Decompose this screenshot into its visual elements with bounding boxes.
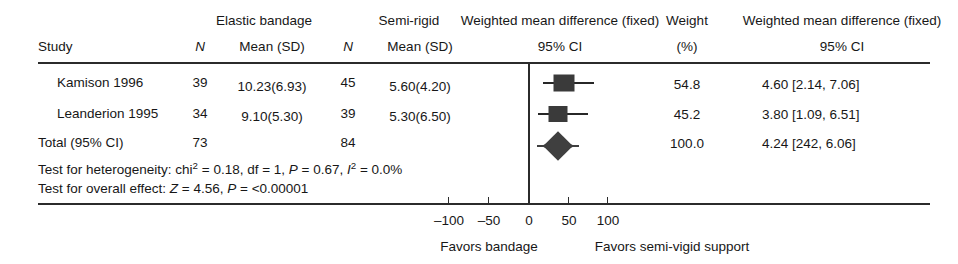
- table-row-weight: 45.2: [674, 108, 700, 122]
- overall-mid: = 4.56,: [178, 181, 227, 196]
- header-group2-title: Semi-rigid: [379, 14, 440, 28]
- heterogeneity-test: Test for heterogeneity: chi2 = 0.18, df …: [38, 163, 402, 177]
- header-forest-title: Weighted mean difference (fixed): [461, 14, 659, 28]
- table-row-n2: 39: [340, 107, 355, 121]
- p-symbol: P: [227, 181, 236, 196]
- table-row-effect: 4.60 [2.14, 7.06]: [762, 78, 860, 92]
- header-mean-sd-group1: Mean (SD): [239, 40, 304, 54]
- z-symbol: Z: [170, 181, 178, 196]
- total-row-n2: 84: [340, 136, 355, 150]
- total-row-n1: 73: [192, 136, 207, 150]
- axis-tick: [488, 197, 489, 203]
- footer-rule: [38, 203, 930, 205]
- header-weight-title: Weight: [666, 14, 708, 28]
- table-row-n1: 34: [192, 107, 207, 121]
- total-row-weight: 100.0: [670, 137, 704, 151]
- axis-tick-label: 0: [525, 214, 533, 228]
- table-row-mean-sd1: 10.23(6.93): [237, 80, 306, 94]
- table-row-mean-sd2: 5.30(6.50): [389, 110, 451, 124]
- table-row-study: Kamison 1996: [57, 76, 143, 90]
- forest-plot-figure: Elastic bandage Semi-rigid Weighted mean…: [0, 0, 958, 264]
- header-effect-title: Weighted mean difference (fixed): [743, 14, 941, 28]
- heterogeneity-prefix: Test for heterogeneity: chi: [38, 162, 193, 177]
- overall-tail: = <0.00001: [236, 181, 308, 196]
- axis-tick: [568, 197, 569, 203]
- total-row-study: Total (95% CI): [38, 136, 124, 150]
- axis-tick-label: –100: [434, 214, 464, 228]
- axis-tick-label: –50: [478, 214, 501, 228]
- table-row-effect: 3.80 [1.09, 6.51]: [762, 108, 860, 122]
- header-mean-sd-group2: Mean (SD): [387, 40, 452, 54]
- axis-tick: [528, 197, 529, 203]
- table-row-mean-sd1: 9.10(5.30): [241, 110, 303, 124]
- axis-tick: [448, 197, 449, 203]
- effect-marker-square: [549, 106, 568, 122]
- header-n-group2: N: [343, 40, 353, 54]
- heterogeneity-mid: = 0.18, df = 1,: [198, 162, 289, 177]
- header-study-label: Study: [38, 40, 73, 54]
- header-rule: [38, 62, 930, 64]
- table-row-n2: 45: [340, 76, 355, 90]
- header-weight-sub: (%): [677, 40, 698, 54]
- favors-right-label: Favors semi-vigid support: [595, 240, 750, 254]
- axis-tick-label: 50: [561, 214, 576, 228]
- null-effect-line: [528, 62, 530, 203]
- table-row-mean-sd2: 5.60(4.20): [389, 80, 451, 94]
- table-row-weight: 54.8: [674, 78, 700, 92]
- header-n-group1: N: [195, 40, 205, 54]
- favors-left-label: Favors bandage: [440, 240, 538, 254]
- p-symbol: P: [289, 162, 298, 177]
- header-effect-sub: 95% CI: [820, 40, 864, 54]
- heterogeneity-after-p: = 0.67,: [298, 162, 347, 177]
- table-row-study: Leanderion 1995: [57, 107, 158, 121]
- overall-prefix: Test for overall effect:: [38, 181, 170, 196]
- header-forest-sub: 95% CI: [538, 40, 582, 54]
- overall-effect-test: Test for overall effect: Z = 4.56, P = <…: [38, 182, 308, 196]
- heterogeneity-tail: = 0.0%: [356, 162, 402, 177]
- total-row-effect: 4.24 [242, 6.06]: [762, 137, 856, 151]
- table-row-n1: 39: [192, 76, 207, 90]
- axis-tick: [607, 197, 608, 203]
- axis-tick-label: 100: [597, 214, 620, 228]
- effect-marker-square: [554, 74, 575, 91]
- header-group1-title: Elastic bandage: [216, 14, 312, 28]
